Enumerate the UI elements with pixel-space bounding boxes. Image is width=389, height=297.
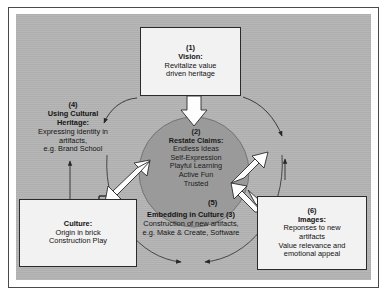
claims-item-5: Trusted (144, 180, 248, 189)
culture-line-2: Construction Play (49, 237, 107, 246)
images-line-4: emotional appeal (284, 250, 340, 259)
cultural-heritage-block: (4) Using Cultural Heritage: Expressing … (12, 101, 134, 154)
embedding-block: Embedding in Culture (3) Construction of… (118, 211, 264, 238)
arrow-vision-to-images (243, 97, 282, 136)
vision-line-2: driven heritage (166, 70, 215, 79)
vision-box[interactable]: (1) Vision: Revitalize value driven heri… (140, 27, 241, 96)
restate-claims-text: (2) Restate Claims: Endless Ideas Self-E… (144, 128, 248, 188)
diagram-canvas: (1) Vision: Revitalize value driven heri… (0, 0, 389, 297)
heritage-line-3: e.g. Brand School (12, 145, 134, 154)
tag-five: (5) (208, 198, 217, 207)
images-box[interactable]: (6) Images: Reponses to new artifacts Va… (257, 196, 367, 270)
embedding-line-2: e.g. Make & Create, Software (118, 229, 264, 238)
